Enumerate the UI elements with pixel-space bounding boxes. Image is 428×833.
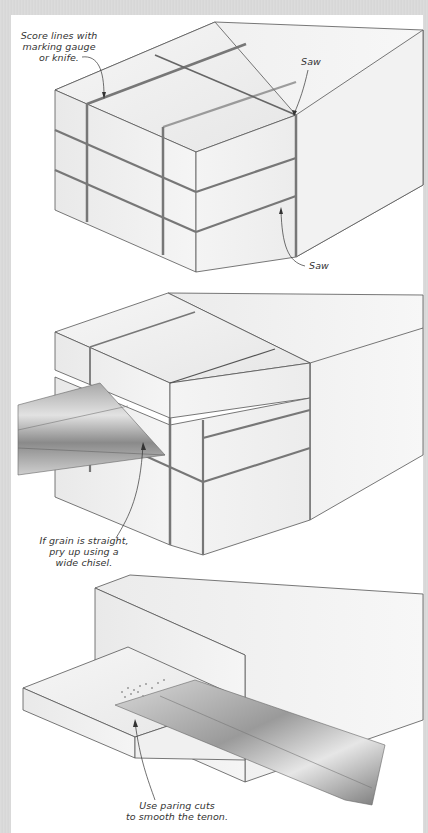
- step-1-drawing: [55, 22, 423, 272]
- tenon-illustration: [0, 0, 428, 833]
- figure-frame: Score lines with marking gauge or knife.…: [0, 0, 428, 833]
- callout-pry-chisel: If grain is straight, pry up using a wid…: [28, 535, 140, 568]
- callout-saw-top: Saw: [296, 56, 326, 67]
- callout-paring-cuts: Use paring cuts to smooth the tenon.: [118, 800, 236, 822]
- callout-saw-side: Saw: [304, 260, 334, 271]
- step-3-drawing: [23, 575, 423, 805]
- step-2-drawing: [18, 293, 423, 555]
- callout-score-lines: Score lines with marking gauge or knife.: [18, 30, 100, 63]
